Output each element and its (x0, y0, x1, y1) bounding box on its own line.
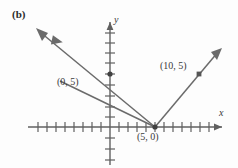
point-marker-vertex (152, 124, 157, 129)
plotted-points (107, 71, 201, 129)
coordinate-plane-svg (0, 0, 238, 168)
point-marker-y-intercept (107, 71, 112, 76)
x-axis-group (28, 124, 222, 131)
graph-figure: (b) (0, 0, 238, 168)
point-marker-right (197, 72, 202, 77)
point-label-right: (10, 5) (160, 60, 187, 71)
x-axis-arrowhead-icon (214, 124, 222, 131)
point-label-y-intercept: (0, 5) (57, 76, 79, 87)
left-ray-arrow-tip-icon (36, 28, 48, 41)
y-axis-arrowhead-icon (107, 22, 114, 30)
point-label-vertex: (5, 0) (137, 131, 159, 142)
x-axis-label: x (219, 107, 223, 118)
y-axis-label: y (114, 14, 118, 25)
